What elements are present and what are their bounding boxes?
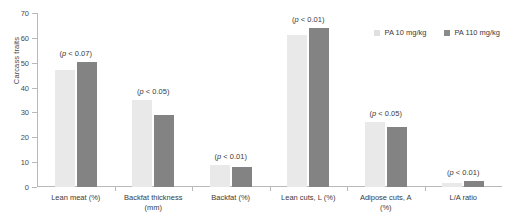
- y-axis-title: Carcass traits: [12, 1, 21, 121]
- y-tick-label: 50: [21, 58, 29, 67]
- bar[interactable]: [387, 127, 407, 187]
- y-tick-label: 10: [21, 158, 29, 167]
- p-value-annotation: (p < 0.01): [425, 168, 503, 177]
- y-tick-label: 40: [21, 83, 29, 92]
- bar[interactable]: [442, 183, 462, 187]
- x-axis-separator: [270, 187, 271, 191]
- legend-item-series-1[interactable]: PA 110 mg/kg: [444, 28, 500, 37]
- bars: [192, 13, 270, 187]
- y-tick-label: 0: [25, 183, 29, 192]
- category-label-line: Backfat thickness: [115, 193, 193, 203]
- p-value-annotation: (p < 0.05): [347, 109, 425, 118]
- category-label-line: L/A ratio: [425, 193, 503, 203]
- x-axis-separator: [192, 187, 193, 191]
- bars: [37, 13, 115, 187]
- category-label: Adipose cuts, A(%): [347, 193, 425, 213]
- bar[interactable]: [232, 167, 252, 187]
- legend: PA 10 mg/kg PA 110 mg/kg: [374, 28, 500, 37]
- category-label-line: Adipose cuts, A: [347, 193, 425, 203]
- category-label-line: Lean meat (%): [37, 193, 115, 203]
- p-value-annotation: (p < 0.01): [192, 152, 270, 161]
- y-tick-label: 20: [21, 133, 29, 142]
- bars: [347, 13, 425, 187]
- x-axis-separator: [425, 187, 426, 191]
- bars: [425, 13, 503, 187]
- bar[interactable]: [154, 115, 174, 187]
- y-tick-label: 30: [21, 108, 29, 117]
- p-value-annotation: (p < 0.05): [115, 87, 193, 96]
- y-tick-label: 60: [21, 33, 29, 42]
- bar-group: (p < 0.07): [37, 13, 115, 187]
- p-value-annotation: (p < 0.07): [37, 49, 115, 58]
- y-tick-mark: [32, 187, 37, 188]
- category-label: Backfat (%): [192, 193, 270, 203]
- bar[interactable]: [77, 62, 97, 187]
- category-label: Lean meat (%): [37, 193, 115, 203]
- legend-label: PA 110 mg/kg: [454, 28, 500, 37]
- bar-chart: Carcass traits 010203040506070 (p < 0.07…: [0, 0, 506, 219]
- category-label: Lean cuts, L (%): [270, 193, 348, 203]
- category-label-line: Lean cuts, L (%): [270, 193, 348, 203]
- bar[interactable]: [287, 35, 307, 187]
- bar-group: (p < 0.01): [192, 13, 270, 187]
- legend-swatch-icon: [374, 30, 380, 36]
- legend-label: PA 10 mg/kg: [384, 28, 426, 37]
- bar[interactable]: [55, 70, 75, 187]
- legend-item-series-0[interactable]: PA 10 mg/kg: [374, 28, 426, 37]
- category-label-line: (mm): [115, 203, 193, 213]
- bar[interactable]: [365, 122, 385, 187]
- category-label-line: Backfat (%): [192, 193, 270, 203]
- bar[interactable]: [132, 100, 152, 187]
- bars: [115, 13, 193, 187]
- category-label: Backfat thickness(mm): [115, 193, 193, 213]
- x-axis-separator: [347, 187, 348, 191]
- y-tick-label: 70: [21, 9, 29, 18]
- bar-group: (p < 0.05): [115, 13, 193, 187]
- legend-swatch-icon: [444, 30, 450, 36]
- bars: [270, 13, 348, 187]
- bar-group: (p < 0.05): [347, 13, 425, 187]
- bar[interactable]: [464, 181, 484, 187]
- bar-group: (p < 0.01): [425, 13, 503, 187]
- category-label-line: (%): [347, 203, 425, 213]
- bar[interactable]: [210, 165, 230, 187]
- plot-area: 010203040506070 (p < 0.07)(p < 0.05)(p <…: [37, 13, 502, 187]
- category-label: L/A ratio: [425, 193, 503, 203]
- p-value-annotation: (p < 0.01): [270, 15, 348, 24]
- bar-group: (p < 0.01): [270, 13, 348, 187]
- x-axis-separator: [115, 187, 116, 191]
- bar[interactable]: [309, 28, 329, 187]
